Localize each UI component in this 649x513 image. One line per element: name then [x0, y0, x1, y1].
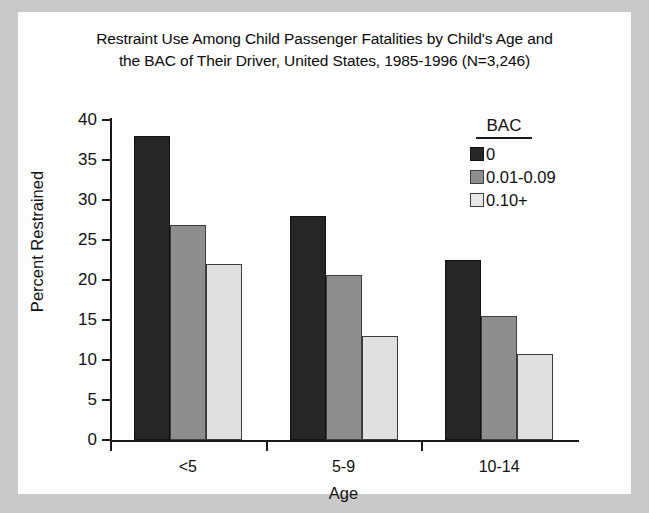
y-tick-mark — [102, 439, 110, 441]
legend-title: BAC — [476, 116, 532, 139]
bar-1014-series-0 — [445, 260, 481, 440]
y-tick-mark — [102, 319, 110, 321]
legend-entry: 0.10+ — [470, 192, 556, 208]
chart-legend: BAC 00.01-0.090.10+ — [470, 116, 556, 215]
y-tick-mark — [102, 199, 110, 201]
bar-59-series-2 — [362, 336, 398, 440]
y-tick-label: 5 — [88, 390, 97, 410]
y-tick-label: 20 — [78, 270, 97, 290]
x-axis-line — [110, 440, 579, 442]
y-tick-label: 0 — [88, 430, 97, 450]
y-axis-line — [110, 118, 112, 442]
y-tick-mark — [102, 399, 110, 401]
legend-entries: 00.01-0.090.10+ — [470, 146, 556, 208]
legend-entry: 0.01-0.09 — [470, 169, 556, 185]
legend-label: 0.01-0.09 — [486, 169, 556, 185]
y-axis-title: Percent Restrained — [24, 168, 50, 251]
legend-swatch-icon — [470, 170, 484, 184]
y-tick-mark — [102, 279, 110, 281]
legend-label: 0.10+ — [486, 192, 528, 208]
legend-swatch-icon — [470, 147, 484, 161]
legend-label: 0 — [486, 146, 495, 162]
y-tick-label: 35 — [78, 150, 97, 170]
y-tick-label: 10 — [78, 350, 97, 370]
x-axis-title: Age — [110, 484, 577, 503]
chart-title-line-2: the BAC of Their Driver, United States, … — [18, 50, 631, 72]
y-tick-mark — [102, 239, 110, 241]
x-category-label: 5-9 — [332, 458, 355, 476]
bar-5-series-1 — [170, 225, 206, 440]
bar-5-series-2 — [206, 264, 242, 440]
bar-1014-series-2 — [517, 354, 553, 440]
chart-title-line-1: Restraint Use Among Child Passenger Fata… — [18, 28, 631, 50]
y-tick-label: 25 — [78, 230, 97, 250]
y-tick-mark — [102, 159, 110, 161]
chart-figure: Restraint Use Among Child Passenger Fata… — [18, 12, 631, 494]
y-axis-title-text: Percent Restrained — [28, 157, 47, 327]
bar-5-series-0 — [134, 136, 170, 440]
x-tick-mark — [110, 442, 112, 451]
legend-entry: 0 — [470, 146, 556, 162]
x-tick-mark — [266, 442, 268, 451]
x-tick-mark — [421, 442, 423, 451]
chart-title: Restraint Use Among Child Passenger Fata… — [18, 28, 631, 72]
legend-swatch-icon — [470, 193, 484, 207]
y-tick-mark — [102, 359, 110, 361]
bar-1014-series-1 — [481, 316, 517, 440]
y-tick-label: 15 — [78, 310, 97, 330]
x-category-label: <5 — [179, 458, 197, 476]
bar-59-series-1 — [326, 275, 362, 440]
y-tick-label: 30 — [78, 190, 97, 210]
y-tick-mark — [102, 119, 110, 121]
y-tick-label: 40 — [78, 110, 97, 130]
bar-59-series-0 — [290, 216, 326, 440]
x-category-label: 10-14 — [479, 458, 520, 476]
